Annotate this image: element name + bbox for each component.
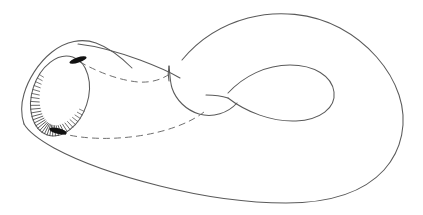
paper-background (0, 0, 423, 215)
hatch-tick (31, 101, 40, 102)
klein-bottle-drawing (0, 0, 423, 215)
figure-canvas: Klein bottle immersion diagram Hand-draw… (0, 0, 423, 215)
